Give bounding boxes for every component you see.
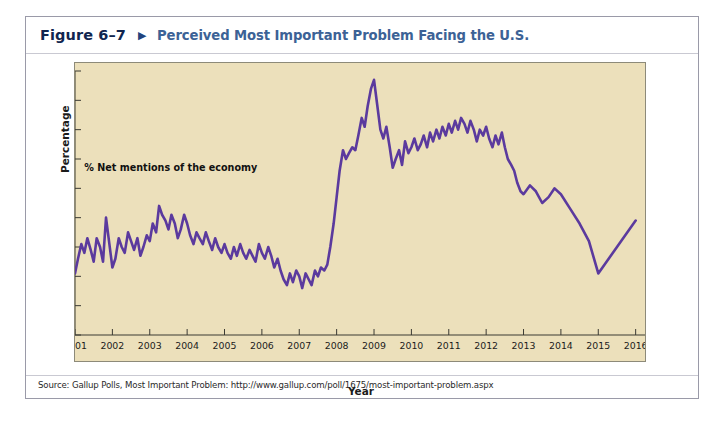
triangle-right-icon: ▶ <box>138 30 146 41</box>
x-tick-label: 2004 <box>175 340 199 351</box>
figure-title: Perceived Most Important Problem Facing … <box>157 28 529 43</box>
x-tick-label: 2016 <box>624 340 645 351</box>
figure-header: Figure 6–7 ▶ Perceived Most Important Pr… <box>26 17 698 53</box>
chart-plot-panel: Percentage 0102030405060708090 200120022… <box>74 62 646 362</box>
source-note: Source: Gallup Polls, Most Important Pro… <box>38 380 494 390</box>
x-tick-label: 2010 <box>399 340 423 351</box>
x-tick-label: 2007 <box>287 340 311 351</box>
header-divider <box>26 53 698 54</box>
x-tick-label: 2006 <box>250 340 274 351</box>
x-tick-label: 2005 <box>213 340 237 351</box>
x-tick-label: 2015 <box>586 340 610 351</box>
x-tick-label: 2008 <box>325 340 349 351</box>
series-line <box>75 80 636 288</box>
y-axis-title: Percentage <box>59 105 71 173</box>
x-tick-label: 2014 <box>549 340 573 351</box>
x-tick-label: 2003 <box>138 340 162 351</box>
axis-lines <box>75 71 645 335</box>
figure-number: Figure 6–7 <box>40 27 126 43</box>
y-axis-ticks: 0102030405060708090 <box>75 65 81 340</box>
x-tick-label: 2011 <box>437 340 461 351</box>
source-divider <box>26 375 698 376</box>
x-tick-label: 2013 <box>512 340 536 351</box>
x-tick-label: 2012 <box>474 340 498 351</box>
figure-card: Figure 6–7 ▶ Perceived Most Important Pr… <box>25 16 699 399</box>
series-annotation: % Net mentions of the economy <box>84 162 258 173</box>
x-tick-label: 2009 <box>362 340 386 351</box>
x-tick-label: 2002 <box>100 340 124 351</box>
x-tick-label: 2001 <box>75 340 87 351</box>
line-chart-svg: 0102030405060708090 20012002200320042005… <box>75 63 645 361</box>
x-axis-ticks: 2001200220032004200520062007200820092010… <box>75 329 645 351</box>
data-series-group <box>75 80 636 288</box>
